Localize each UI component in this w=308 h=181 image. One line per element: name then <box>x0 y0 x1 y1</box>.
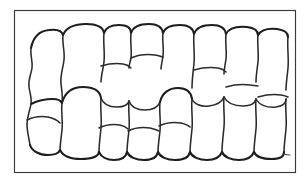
figure-frame <box>15 11 296 173</box>
figure-page <box>0 0 308 181</box>
cell-tissue-drawing <box>0 0 308 181</box>
